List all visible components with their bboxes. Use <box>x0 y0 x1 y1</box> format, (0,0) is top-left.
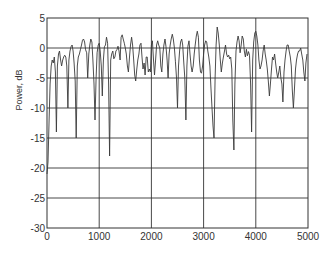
plot-frame <box>47 18 308 228</box>
power-curve <box>47 27 307 174</box>
y-tick-label: -30 <box>31 223 46 234</box>
x-axis: 010002000300040005000 <box>44 231 319 242</box>
y-axis-title: Power, dB <box>14 69 24 110</box>
x-tick-label: 2000 <box>140 231 163 242</box>
x-tick-label: 3000 <box>192 231 215 242</box>
x-tick-label: 0 <box>44 231 50 242</box>
y-tick-label: -10 <box>31 103 46 114</box>
y-tick-label: -20 <box>31 163 46 174</box>
y-tick-label: -5 <box>36 73 45 84</box>
x-tick-label: 5000 <box>297 231 320 242</box>
y-tick-label: 5 <box>39 13 45 24</box>
x-tick-label: 4000 <box>245 231 268 242</box>
y-tick-label: -25 <box>31 193 46 204</box>
y-tick-label: -15 <box>31 133 46 144</box>
power-spectrum-chart: 50-5-10-15-20-25-30 01000200030004000500… <box>0 0 334 256</box>
x-tick-label: 1000 <box>88 231 111 242</box>
y-axis: 50-5-10-15-20-25-30 <box>31 13 46 234</box>
y-tick-label: 0 <box>39 43 45 54</box>
grid-lines <box>47 18 308 228</box>
